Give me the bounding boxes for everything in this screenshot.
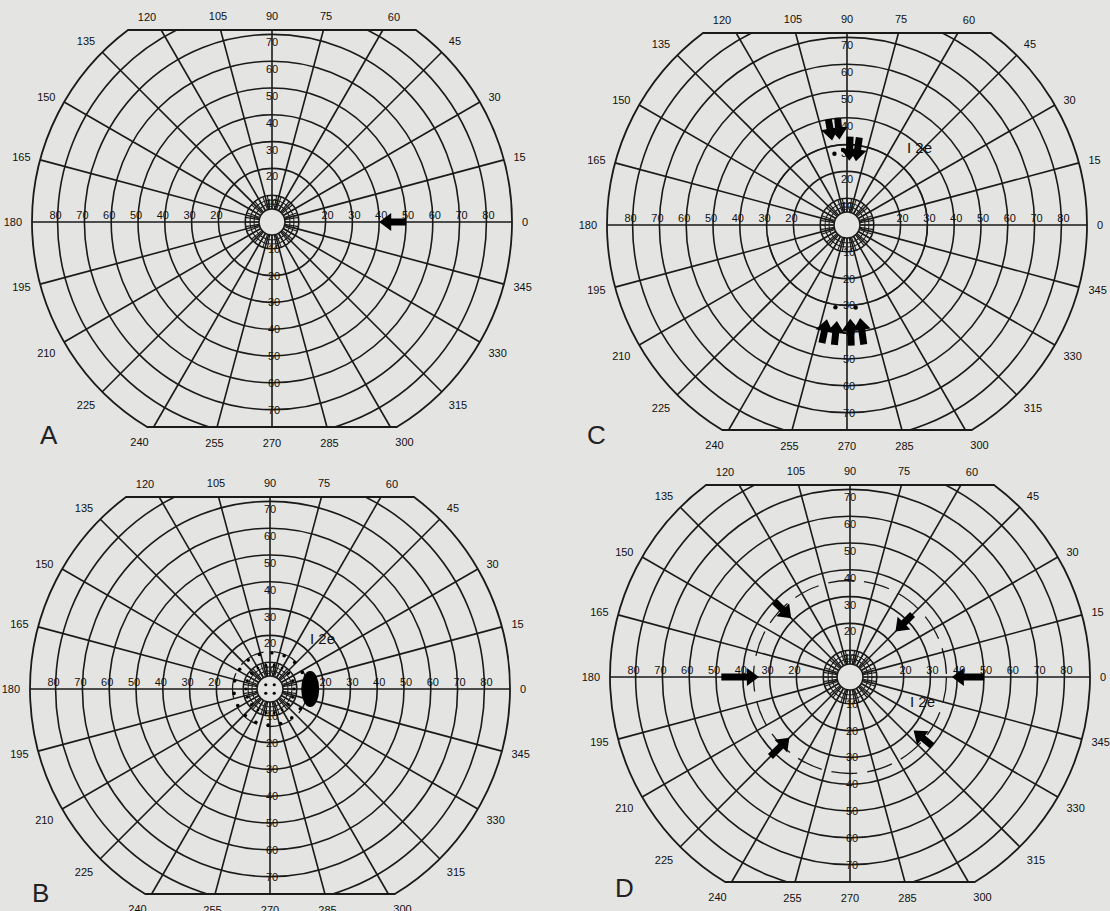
- svg-text:105: 105: [207, 477, 225, 489]
- svg-text:225: 225: [655, 854, 673, 866]
- svg-text:30: 30: [926, 664, 938, 676]
- svg-text:150: 150: [612, 94, 630, 106]
- polar-grid: 0153045607590105120135150165180195210225…: [0, 0, 555, 455]
- svg-text:15: 15: [511, 618, 523, 630]
- svg-text:I 2e: I 2e: [910, 693, 935, 710]
- svg-text:50: 50: [846, 805, 858, 817]
- perimetry-chart-d: 0153045607590105120135150165180195210225…: [555, 455, 1110, 910]
- svg-text:20: 20: [268, 270, 280, 282]
- svg-text:40: 40: [266, 117, 278, 129]
- svg-text:255: 255: [780, 440, 798, 452]
- perimetry-chart-b: 0153045607590105120135150165180195210225…: [0, 455, 555, 910]
- svg-text:150: 150: [37, 91, 55, 103]
- svg-text:20: 20: [843, 273, 855, 285]
- svg-text:45: 45: [1024, 38, 1036, 50]
- svg-text:I 2e: I 2e: [310, 630, 335, 647]
- svg-text:80: 80: [1057, 212, 1069, 224]
- svg-text:300: 300: [393, 903, 411, 911]
- svg-text:30: 30: [923, 212, 935, 224]
- svg-text:225: 225: [75, 866, 93, 878]
- svg-text:210: 210: [35, 814, 53, 826]
- panel-label-b: B: [32, 878, 49, 909]
- svg-text:30: 30: [266, 763, 278, 775]
- svg-text:20: 20: [788, 664, 800, 676]
- svg-text:330: 330: [487, 814, 505, 826]
- svg-text:40: 40: [268, 323, 280, 335]
- svg-text:315: 315: [1027, 854, 1045, 866]
- svg-text:240: 240: [708, 891, 726, 903]
- svg-text:10: 10: [844, 652, 856, 664]
- svg-text:240: 240: [128, 903, 146, 911]
- svg-text:80: 80: [627, 664, 639, 676]
- svg-text:20: 20: [319, 676, 331, 688]
- svg-text:20: 20: [846, 725, 858, 737]
- svg-text:40: 40: [157, 209, 169, 221]
- svg-text:20: 20: [896, 212, 908, 224]
- svg-text:210: 210: [37, 347, 55, 359]
- svg-text:10: 10: [843, 246, 855, 258]
- svg-text:45: 45: [449, 35, 461, 47]
- svg-text:60: 60: [678, 212, 690, 224]
- svg-text:270: 270: [838, 440, 856, 452]
- svg-text:300: 300: [970, 439, 988, 451]
- svg-text:20: 20: [208, 676, 220, 688]
- svg-text:80: 80: [49, 209, 61, 221]
- svg-text:270: 270: [263, 437, 281, 449]
- svg-text:70: 70: [453, 676, 465, 688]
- svg-text:90: 90: [841, 13, 853, 25]
- svg-text:120: 120: [716, 466, 734, 478]
- svg-text:20: 20: [899, 664, 911, 676]
- svg-text:30: 30: [761, 664, 773, 676]
- svg-text:10: 10: [268, 243, 280, 255]
- svg-text:20: 20: [266, 170, 278, 182]
- svg-text:50: 50: [266, 90, 278, 102]
- svg-text:70: 70: [841, 39, 853, 51]
- svg-text:80: 80: [47, 676, 59, 688]
- svg-text:300: 300: [395, 436, 413, 448]
- svg-text:330: 330: [1067, 802, 1085, 814]
- svg-text:20: 20: [266, 737, 278, 749]
- svg-text:150: 150: [615, 546, 633, 558]
- svg-text:45: 45: [447, 502, 459, 514]
- svg-text:50: 50: [844, 545, 856, 557]
- svg-text:240: 240: [130, 436, 148, 448]
- svg-text:345: 345: [1088, 284, 1106, 296]
- svg-text:30: 30: [181, 676, 193, 688]
- svg-text:255: 255: [203, 904, 221, 911]
- svg-text:90: 90: [844, 465, 856, 477]
- svg-text:345: 345: [513, 281, 531, 293]
- svg-text:70: 70: [843, 407, 855, 419]
- svg-text:60: 60: [266, 63, 278, 75]
- svg-text:225: 225: [652, 402, 670, 414]
- svg-text:70: 70: [1033, 664, 1045, 676]
- svg-text:210: 210: [612, 350, 630, 362]
- svg-text:135: 135: [77, 35, 95, 47]
- svg-text:60: 60: [266, 844, 278, 856]
- svg-text:180: 180: [582, 671, 600, 683]
- svg-text:10: 10: [266, 197, 278, 209]
- svg-text:75: 75: [898, 465, 910, 477]
- svg-text:105: 105: [787, 465, 805, 477]
- svg-text:30: 30: [264, 611, 276, 623]
- svg-text:60: 60: [843, 380, 855, 392]
- svg-text:30: 30: [489, 91, 501, 103]
- svg-text:50: 50: [977, 212, 989, 224]
- svg-text:75: 75: [318, 477, 330, 489]
- svg-text:30: 30: [266, 144, 278, 156]
- svg-text:50: 50: [128, 676, 140, 688]
- svg-text:70: 70: [266, 36, 278, 48]
- svg-text:330: 330: [1064, 350, 1082, 362]
- svg-text:30: 30: [846, 751, 858, 763]
- svg-text:165: 165: [587, 154, 605, 166]
- svg-text:255: 255: [205, 437, 223, 449]
- svg-text:195: 195: [12, 281, 30, 293]
- svg-text:50: 50: [266, 817, 278, 829]
- svg-text:315: 315: [1024, 402, 1042, 414]
- svg-text:60: 60: [846, 832, 858, 844]
- panel-label-a: A: [40, 420, 57, 451]
- svg-text:60: 60: [1007, 664, 1019, 676]
- panel-label-d: D: [615, 873, 634, 904]
- svg-text:255: 255: [783, 892, 801, 904]
- svg-text:60: 60: [101, 676, 113, 688]
- svg-text:30: 30: [487, 558, 499, 570]
